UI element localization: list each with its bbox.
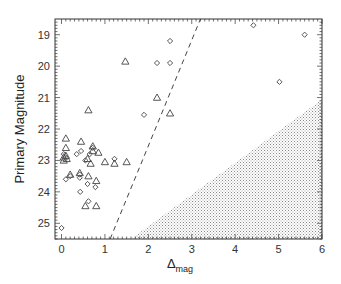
y-tick-label: 22: [38, 123, 50, 135]
diamond-marker: [277, 79, 282, 84]
x-tick-label: 6: [319, 243, 325, 255]
x-tick-label: 0: [58, 243, 64, 255]
triangle-marker: [153, 94, 160, 100]
triangle-marker: [85, 107, 92, 113]
diamond-marker: [141, 112, 146, 117]
shaded-exclusion-region: [131, 99, 322, 239]
x-tick-label: 4: [232, 243, 238, 255]
diamond-marker: [59, 225, 64, 230]
triangle-marker: [101, 158, 108, 164]
diamond-marker: [251, 23, 256, 28]
triangle-marker: [122, 58, 129, 64]
y-tick-label: 24: [38, 186, 50, 198]
diamond-marker: [78, 148, 83, 153]
diamond-marker: [74, 152, 79, 157]
scatter-chart: 012345619202122232425 Primary Magnitude …: [0, 0, 341, 284]
y-tick-label: 23: [38, 154, 50, 166]
y-tick-label: 25: [38, 217, 50, 229]
diamond-marker: [78, 189, 83, 194]
x-tick-label: 2: [145, 243, 151, 255]
diamond-marker: [154, 60, 159, 65]
triangle-marker: [85, 173, 92, 179]
y-tick-label: 20: [38, 60, 50, 72]
diamond-marker: [302, 32, 307, 37]
triangle-marker: [77, 138, 84, 144]
triangle-marker: [93, 177, 100, 183]
triangle-marker: [62, 144, 69, 150]
diamond-marker: [86, 199, 91, 204]
x-tick-label: 3: [189, 243, 195, 255]
y-tick-label: 19: [38, 29, 50, 41]
diamond-marker: [167, 38, 172, 43]
diamond-marker: [93, 185, 98, 190]
diamond-marker: [85, 181, 90, 186]
y-tick-label: 21: [38, 92, 50, 104]
x-axis-title-main: Δ: [167, 256, 176, 271]
triangle-marker: [123, 158, 130, 164]
triangle-marker: [62, 135, 69, 141]
diamond-marker: [167, 60, 172, 65]
x-axis-title-sub: mag: [176, 264, 194, 274]
x-tick-label: 5: [276, 243, 282, 255]
triangle-marker: [93, 202, 100, 208]
stippled-region: [131, 99, 322, 239]
y-axis-title: Primary Magnitude: [12, 74, 27, 183]
x-tick-label: 1: [102, 243, 108, 255]
x-axis-title: Δmag: [167, 256, 193, 274]
triangle-marker: [166, 110, 173, 116]
